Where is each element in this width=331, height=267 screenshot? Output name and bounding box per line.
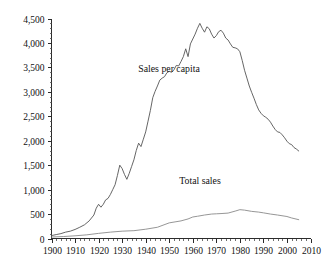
total-sales-label: Total sales — [179, 175, 221, 186]
x-axis-tick-label: 2010 — [302, 246, 321, 256]
y-axis-tick-label: 2,000 — [23, 137, 45, 147]
series-line-total-sales — [52, 210, 299, 237]
line-chart: 05001,0001,5002,0002,5003,0003,5004,0004… — [0, 0, 331, 267]
y-axis-tick-label: 500 — [30, 210, 45, 220]
y-axis-tick-label: 4,000 — [23, 39, 45, 49]
x-axis-tick-label: 1920 — [90, 246, 109, 256]
x-axis-tick-label: 1980 — [231, 246, 250, 256]
x-axis-tick-label: 1950 — [160, 246, 179, 256]
y-axis-tick-label: 4,500 — [23, 15, 45, 25]
y-axis-tick-label: 3,000 — [23, 88, 45, 98]
sales-per-capita-label: Sales per capita — [138, 63, 200, 74]
x-axis-tick-label: 1910 — [66, 246, 85, 256]
y-axis-tick-label: 0 — [40, 235, 45, 245]
y-axis-tick-label: 1,500 — [23, 161, 45, 171]
x-axis-tick-label: 1960 — [184, 246, 203, 256]
x-axis-tick-label: 1930 — [113, 246, 132, 256]
x-axis-tick-label: 2000 — [278, 246, 297, 256]
x-axis-tick-label: 1970 — [207, 246, 226, 256]
chart-canvas: 05001,0001,5002,0002,5003,0003,5004,0004… — [0, 0, 331, 267]
series-line-sales-per-capita — [52, 23, 299, 235]
y-axis-tick-label: 3,500 — [23, 63, 45, 73]
y-axis-tick-label: 2,500 — [23, 112, 45, 122]
y-axis-tick-label: 1,000 — [23, 186, 45, 196]
x-axis-tick-label: 1900 — [43, 246, 62, 256]
x-axis-tick-label: 1990 — [254, 246, 273, 256]
x-axis-tick-label: 1940 — [137, 246, 156, 256]
